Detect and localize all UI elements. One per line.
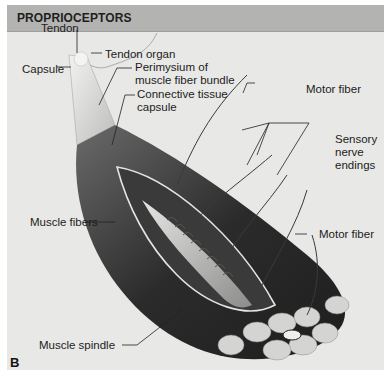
spindle-cross-section: [283, 330, 301, 340]
tendon-organ-shape: [74, 52, 88, 66]
panel-letter: B: [10, 355, 19, 370]
proprioceptors-figure: PROPRIOCEPTORS: [7, 5, 384, 370]
label-motor-fiber-right: Motor fiber: [319, 228, 374, 241]
label-connective-2: capsule: [137, 101, 177, 114]
label-muscle-fibers: Muscle fibers: [30, 216, 98, 229]
label-tendon: Tendon: [41, 22, 79, 35]
label-perimysium-1: Perimysium of: [135, 61, 208, 74]
label-sensory-1: Sensory: [335, 133, 377, 146]
label-capsule: Capsule: [22, 63, 64, 76]
label-sensory-2: nerve: [335, 146, 364, 159]
label-muscle-spindle: Muscle spindle: [39, 339, 115, 352]
label-connective-1: Connective tissue: [137, 88, 228, 101]
label-sensory-3: endings: [335, 159, 375, 172]
muscle-illustration: [7, 5, 384, 370]
label-motor-fiber-top: Motor fiber: [306, 83, 361, 96]
label-perimysium-2: muscle fiber bundle: [135, 74, 235, 87]
label-tendon-organ: Tendon organ: [105, 48, 175, 61]
